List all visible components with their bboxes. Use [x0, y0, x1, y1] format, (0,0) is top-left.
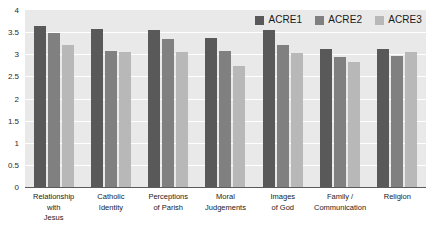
bar-group [197, 10, 254, 187]
bar-acre3 [176, 52, 188, 187]
x-axis-label: Family /Communication [311, 190, 368, 230]
bar-acre3 [62, 45, 74, 187]
bar-acre2 [334, 57, 346, 187]
bar-group [369, 10, 426, 187]
x-axis-labels: Relationship withJesusCatholicIdentityPe… [25, 190, 426, 230]
bar-acre2 [162, 39, 174, 187]
y-axis: 43.532.521.510.50 [0, 10, 22, 187]
bar-acre3 [233, 66, 245, 187]
bar-group [311, 10, 368, 187]
x-axis-label: MoralJudgements [197, 190, 254, 230]
y-tick-label: 3 [15, 50, 19, 59]
y-tick-label: 0 [15, 183, 19, 192]
bar-acre2 [277, 45, 289, 187]
bar-chart: ACRE1 ACRE2 ACRE3 43.532.521.510.50 Rela… [0, 0, 430, 231]
y-tick-label: 2 [15, 94, 19, 103]
legend-swatch-acre1 [255, 16, 264, 25]
bar-group [82, 10, 139, 187]
bar-acre3 [119, 52, 131, 187]
chart-legend: ACRE1 ACRE2 ACRE3 [255, 15, 422, 25]
x-axis-label: CatholicIdentity [82, 190, 139, 230]
legend-label-acre1: ACRE1 [268, 15, 302, 25]
legend-item-acre3: ACRE3 [375, 15, 422, 25]
y-tick-label: 0.5 [8, 160, 19, 169]
x-axis-label: Relationship withJesus [25, 190, 82, 230]
bar-groups [25, 10, 426, 187]
bar-acre2 [48, 33, 60, 187]
bar-acre1 [91, 29, 103, 187]
x-axis-label: Perceptionsof Parish [140, 190, 197, 230]
bar-acre1 [263, 30, 275, 187]
bar-acre2 [219, 51, 231, 187]
legend-swatch-acre2 [315, 16, 324, 25]
x-axis-label: Imagesof God [254, 190, 311, 230]
bar-acre2 [105, 51, 117, 187]
plot-area [25, 10, 426, 187]
bar-acre1 [148, 30, 160, 187]
bar-acre3 [291, 53, 303, 187]
bar-group [25, 10, 82, 187]
bar-acre1 [377, 49, 389, 187]
x-axis-line [25, 187, 426, 188]
legend-item-acre1: ACRE1 [255, 15, 302, 25]
y-tick-label: 4 [15, 6, 19, 15]
bar-acre2 [391, 56, 403, 187]
y-tick-label: 3.5 [8, 28, 19, 37]
legend-swatch-acre3 [375, 16, 384, 25]
legend-item-acre2: ACRE2 [315, 15, 362, 25]
bar-acre1 [320, 49, 332, 188]
bar-group [140, 10, 197, 187]
y-tick-label: 1.5 [8, 116, 19, 125]
bar-group [254, 10, 311, 187]
x-axis-label: Religion [369, 190, 426, 230]
bar-acre1 [34, 26, 46, 188]
y-tick-label: 2.5 [8, 72, 19, 81]
bar-acre3 [348, 62, 360, 187]
bar-acre3 [405, 52, 417, 187]
legend-label-acre3: ACRE3 [388, 15, 422, 25]
legend-label-acre2: ACRE2 [328, 15, 362, 25]
y-tick-label: 1 [15, 138, 19, 147]
bar-acre1 [205, 38, 217, 187]
